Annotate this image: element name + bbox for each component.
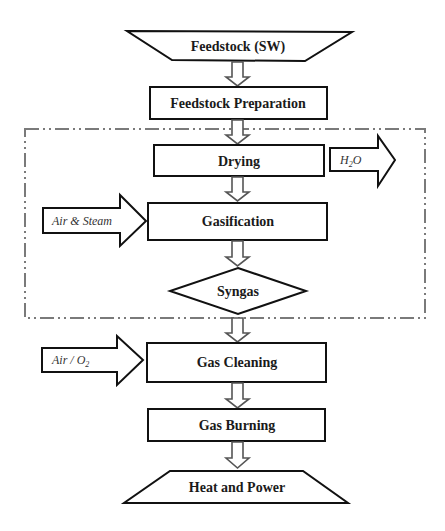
feedstock-label: Feedstock (SW) <box>191 39 286 55</box>
node-gasification: Gasification <box>148 203 327 240</box>
air-steam-label: Air & Steam <box>51 214 112 228</box>
node-syngas: Syngas <box>170 268 306 314</box>
flow-arrow-down-icon <box>226 62 249 86</box>
flow-arrow-down-icon <box>226 442 249 468</box>
air-o2-label: Air / O2 <box>51 353 89 369</box>
gasification-label: Gasification <box>202 214 275 229</box>
feedstock-preparation-label: Feedstock Preparation <box>170 96 306 111</box>
drying-label: Drying <box>218 154 260 169</box>
side-flow-air-o2-in: Air / O2 <box>42 336 143 385</box>
node-gas-cleaning: Gas Cleaning <box>147 343 326 382</box>
side-flow-h2o-out: H2O <box>330 136 395 186</box>
flow-arrow-down-icon <box>226 177 249 201</box>
node-feedstock-preparation: Feedstock Preparation <box>150 87 327 119</box>
node-drying: Drying <box>154 145 324 176</box>
flow-arrow-down-icon <box>226 383 249 408</box>
node-feedstock: Feedstock (SW) <box>127 31 352 61</box>
syngas-label: Syngas <box>217 284 260 299</box>
gas-cleaning-label: Gas Cleaning <box>197 355 278 370</box>
flow-arrow-down-icon <box>226 318 249 342</box>
node-heat-and-power: Heat and Power <box>124 471 348 503</box>
flow-arrow-down-icon <box>226 120 249 144</box>
gasification-flow-diagram: Feedstock (SW) Feedstock Preparation Dry… <box>0 0 445 531</box>
node-gas-burning: Gas Burning <box>148 409 325 441</box>
side-flow-air-steam-in: Air & Steam <box>43 195 146 246</box>
flow-arrow-down-icon <box>226 241 249 266</box>
heat-and-power-label: Heat and Power <box>189 480 285 495</box>
gas-burning-label: Gas Burning <box>199 418 276 433</box>
